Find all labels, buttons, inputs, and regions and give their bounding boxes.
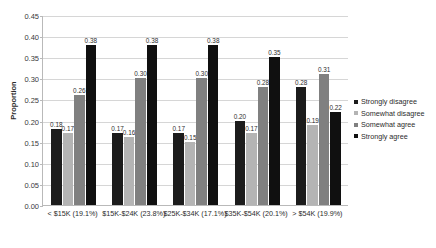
bar-value-label: 0.19	[306, 117, 318, 124]
bar-value-label: 0.30	[196, 70, 208, 77]
bar-group: 0.170.160.300.38	[104, 16, 165, 205]
legend-item[interactable]: Somewhat agree	[354, 119, 436, 131]
y-axis-tick-label: 0.20	[24, 117, 39, 126]
legend-swatch-icon	[354, 111, 358, 115]
bar: 0.35	[269, 57, 280, 205]
legend-swatch-icon	[354, 134, 358, 138]
bar-value-label: 0.30	[134, 70, 146, 77]
bar-value-label: 0.15	[184, 134, 196, 141]
bar-value-label: 0.38	[207, 37, 219, 44]
bar-value-label: 0.17	[62, 125, 74, 132]
legend-label: Somewhat disagree	[361, 109, 425, 118]
bar: 0.17	[246, 133, 257, 205]
bar-value-label: 0.38	[85, 37, 97, 44]
bar-group: 0.170.150.300.38	[165, 16, 226, 205]
bar: 0.22	[330, 112, 341, 205]
y-axis-tick-label: 0.10	[24, 159, 39, 168]
bar: 0.20	[235, 121, 246, 205]
bar: 0.31	[319, 74, 330, 205]
bar-value-label: 0.22	[329, 104, 341, 111]
bar: 0.28	[258, 87, 269, 205]
bar: 0.18	[51, 129, 62, 205]
y-axis-tick-label: 0.25	[24, 96, 39, 105]
legend-swatch-icon	[354, 123, 358, 127]
y-axis-tick-mark	[40, 206, 43, 207]
y-axis-tick-label: 0.45	[24, 12, 39, 21]
bar-value-label: 0.35	[268, 49, 280, 56]
x-axis-category-label: > $54K (19.9%)	[279, 209, 356, 219]
bar: 0.28	[296, 87, 307, 205]
y-axis-tick-label: 0.35	[24, 54, 39, 63]
bar: 0.38	[86, 45, 97, 205]
legend-item[interactable]: Strongly agree	[354, 131, 436, 143]
bar: 0.30	[135, 78, 146, 205]
y-axis-title: Proportion	[9, 66, 18, 136]
legend-swatch-icon	[354, 100, 358, 104]
legend-item[interactable]: Somewhat disagree	[354, 108, 436, 120]
legend-label: Strongly disagree	[361, 97, 417, 106]
y-axis-tick-label: 0.05	[24, 180, 39, 189]
bar-value-label: 0.28	[295, 79, 307, 86]
bar: 0.38	[147, 45, 158, 205]
y-axis-tick-label: 0.30	[24, 75, 39, 84]
bar: 0.15	[185, 142, 196, 205]
bar-value-label: 0.17	[173, 125, 185, 132]
bars-layer: 0.180.170.260.380.170.160.300.380.170.15…	[43, 16, 348, 205]
bar-group: 0.280.190.310.22	[288, 16, 349, 205]
chart-legend: Strongly disagreeSomewhat disagreeSomewh…	[354, 96, 436, 142]
bar-value-label: 0.16	[123, 129, 135, 136]
bar: 0.30	[196, 78, 207, 205]
bar: 0.38	[208, 45, 219, 205]
x-axis-category-labels: < $15K (19.1%)$15K-$24K (23.8%)$25K-$34K…	[42, 209, 348, 247]
bar: 0.26	[74, 95, 85, 205]
legend-item[interactable]: Strongly disagree	[354, 96, 436, 108]
bar-value-label: 0.28	[257, 79, 269, 86]
bar: 0.17	[173, 133, 184, 205]
bar-group: 0.180.170.260.38	[43, 16, 104, 205]
y-axis-tick-label: 0.15	[24, 138, 39, 147]
y-axis-tick-label: 0.40	[24, 33, 39, 42]
grouped-bar-chart: Proportion 0.000.050.100.150.200.250.300…	[0, 0, 436, 248]
bar: 0.16	[124, 137, 135, 205]
bar-value-label: 0.20	[234, 113, 246, 120]
bar: 0.17	[112, 133, 123, 205]
bar-value-label: 0.26	[73, 87, 85, 94]
bar: 0.17	[63, 133, 74, 205]
legend-label: Somewhat agree	[361, 120, 415, 129]
legend-label: Strongly agree	[361, 132, 408, 141]
bar: 0.19	[307, 125, 318, 205]
bar-value-label: 0.17	[245, 125, 257, 132]
bar-group: 0.200.170.280.35	[227, 16, 288, 205]
bar-value-label: 0.31	[318, 66, 330, 73]
plot-area: 0.000.050.100.150.200.250.300.350.400.45…	[42, 16, 348, 206]
bar-value-label: 0.38	[146, 37, 158, 44]
